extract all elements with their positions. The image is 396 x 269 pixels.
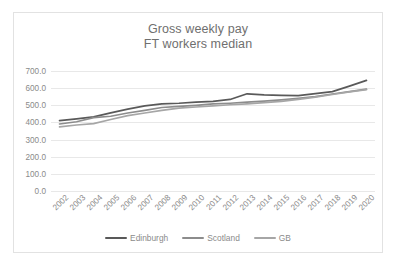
plot-area: 700.0600.0500.0400.0300.0200.0100.00.0 [51, 71, 375, 191]
legend-swatch-icon [182, 237, 204, 239]
legend-label: Edinburgh [130, 233, 168, 243]
legend-label: Scotland [207, 233, 240, 243]
chart-legend: EdinburghScotlandGB [14, 233, 382, 243]
x-axis-tick-label: 2004 [85, 193, 104, 212]
gridline [51, 191, 375, 192]
x-axis-tick-labels: 2002200320042005200620072008200920102011… [51, 193, 375, 233]
x-axis-tick-label: 2016 [289, 193, 308, 212]
x-axis-tick-label: 2005 [102, 193, 121, 212]
legend-swatch-icon [254, 237, 276, 239]
legend-item-gb[interactable]: GB [254, 233, 291, 243]
x-axis-tick-label: 2002 [51, 193, 70, 212]
x-axis-tick-label: 2008 [153, 193, 172, 212]
chart-title-line-1: Gross weekly pay [14, 22, 382, 37]
x-axis-tick-label: 2017 [306, 193, 325, 212]
series-lines [51, 71, 375, 191]
y-axis-tick-label: 200.0 [26, 152, 47, 161]
x-axis-tick-label: 2014 [255, 193, 274, 212]
legend-item-edinburgh[interactable]: Edinburgh [105, 233, 168, 243]
chart-title: Gross weekly pay FT workers median [14, 22, 382, 52]
x-axis-tick-label: 2018 [323, 193, 342, 212]
x-axis-tick-label: 2003 [68, 193, 87, 212]
y-axis-tick-label: 300.0 [26, 135, 47, 144]
x-axis-tick-label: 2006 [119, 193, 138, 212]
x-axis-tick-label: 2012 [221, 193, 240, 212]
x-axis-tick-label: 2013 [238, 193, 257, 212]
x-axis-tick-label: 2020 [358, 193, 377, 212]
legend-swatch-icon [105, 237, 127, 239]
y-axis-tick-label: 0.0 [35, 187, 46, 196]
y-axis-tick-label: 400.0 [26, 118, 47, 127]
legend-item-scotland[interactable]: Scotland [182, 233, 240, 243]
x-axis-tick-label: 2015 [272, 193, 291, 212]
series-line-edinburgh [60, 80, 367, 120]
x-axis-tick-label: 2009 [170, 193, 189, 212]
x-axis-tick-label: 2011 [205, 193, 224, 212]
x-axis-tick-label: 2007 [136, 193, 155, 212]
y-axis-tick-label: 100.0 [26, 169, 47, 178]
x-axis-tick-label: 2010 [187, 193, 206, 212]
x-axis-tick-label: 2019 [341, 193, 360, 212]
y-axis-tick-label: 700.0 [26, 67, 47, 76]
legend-label: GB [279, 233, 291, 243]
y-axis-tick-label: 500.0 [26, 101, 47, 110]
y-axis-tick-label: 600.0 [26, 84, 47, 93]
chart-title-line-2: FT workers median [14, 37, 382, 52]
chart-card: Gross weekly pay FT workers median 700.0… [13, 12, 383, 253]
